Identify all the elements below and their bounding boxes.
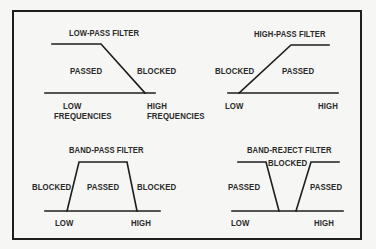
band-reject-low-label: LOW xyxy=(231,218,250,228)
band-pass-high-label: HIGH xyxy=(131,218,151,228)
low-pass-low-label: LOW xyxy=(63,101,82,111)
band-pass-passed-label: PASSED xyxy=(87,182,119,192)
band-pass-low-label: LOW xyxy=(55,218,74,228)
low-pass-blocked-label: BLOCKED xyxy=(137,66,176,76)
low-pass-high-label: HIGH xyxy=(147,101,167,111)
high-pass-passed-label: PASSED xyxy=(282,66,314,76)
high-pass-high-label: HIGH xyxy=(318,101,338,111)
band-reject-title: BAND-REJECT FILTER xyxy=(247,145,332,155)
low-pass-passed-label: PASSED xyxy=(70,66,102,76)
band-pass-blocked-left-label: BLOCKED xyxy=(32,182,71,192)
band-reject-passed-left-label: PASSED xyxy=(228,182,260,192)
band-reject-passed-right-label: PASSED xyxy=(310,182,342,192)
low-pass-title: LOW-PASS FILTER xyxy=(69,28,139,38)
low-pass-high-frequencies-label: FREQUENCIES xyxy=(147,111,205,121)
high-pass-blocked-label: BLOCKED xyxy=(215,66,254,76)
filter-types-diagram: LOW-PASS FILTER PASSED BLOCKED LOW FREQU… xyxy=(0,0,376,249)
low-pass-low-frequencies-label: FREQUENCIES xyxy=(54,111,112,121)
band-reject-blocked-label: BLOCKED xyxy=(268,158,307,168)
high-pass-title: HIGH-PASS FILTER xyxy=(254,29,326,39)
high-pass-low-label: LOW xyxy=(225,101,244,111)
band-pass-title: BAND-PASS FILTER xyxy=(69,145,144,155)
band-pass-blocked-right-label: BLOCKED xyxy=(137,182,176,192)
band-reject-high-label: HIGH xyxy=(314,218,334,228)
